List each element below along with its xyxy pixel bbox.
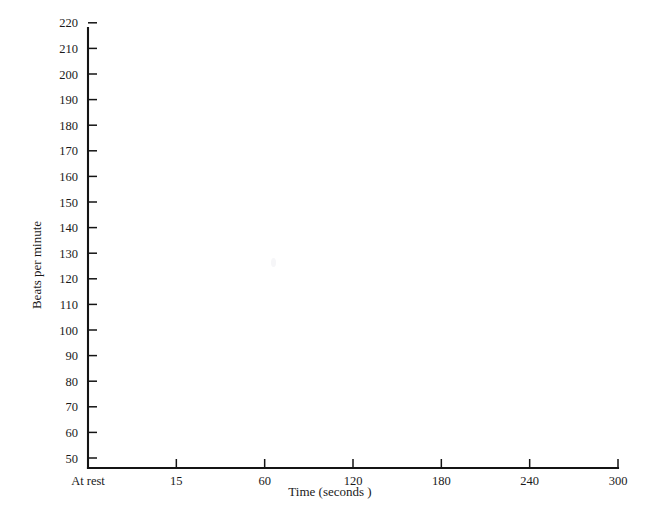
y-axis-tick-label: 200 <box>59 68 78 82</box>
y-axis-tick-label: 130 <box>59 247 78 261</box>
y-axis-tick-label: 220 <box>59 16 78 30</box>
x-axis-ticks <box>176 459 618 468</box>
y-axis-title: Beats per minute <box>29 221 44 309</box>
y-axis-tick-label: 70 <box>66 400 79 414</box>
y-axis-tick-label: 210 <box>59 42 78 56</box>
x-axis-title: Time (seconds ) <box>288 484 371 499</box>
y-axis-tick-label: 120 <box>59 272 78 286</box>
axis-lines <box>88 28 618 468</box>
y-axis-tick-label: 100 <box>59 324 78 338</box>
y-axis-tick-label: 150 <box>59 196 78 210</box>
y-axis-ticks <box>88 23 97 458</box>
y-axis-tick-label: 160 <box>59 170 78 184</box>
y-axis-tick-label: 140 <box>59 221 78 235</box>
x-axis-tick-label: 60 <box>258 474 271 488</box>
y-axis-tick-label: 170 <box>59 144 78 158</box>
x-axis-tick-label: At rest <box>71 474 105 488</box>
y-axis-tick-label: 110 <box>60 298 78 312</box>
y-axis-tick-label: 90 <box>66 349 79 363</box>
chart-figure: 5060708090100110120130140150160170180190… <box>0 0 647 528</box>
y-axis-tick-label: 190 <box>59 93 78 107</box>
x-axis-tick-label: 300 <box>609 474 628 488</box>
x-axis-tick-label: 15 <box>170 474 183 488</box>
y-axis-tick-label: 50 <box>66 452 79 466</box>
y-axis-tick-label: 80 <box>66 375 79 389</box>
y-axis-tick-labels: 5060708090100110120130140150160170180190… <box>59 16 78 465</box>
y-axis-tick-label: 60 <box>66 426 79 440</box>
y-axis-tick-label: 180 <box>59 119 78 133</box>
x-axis-tick-label: 180 <box>432 474 451 488</box>
chart-canvas: 5060708090100110120130140150160170180190… <box>0 0 647 528</box>
x-axis-tick-label: 240 <box>520 474 539 488</box>
